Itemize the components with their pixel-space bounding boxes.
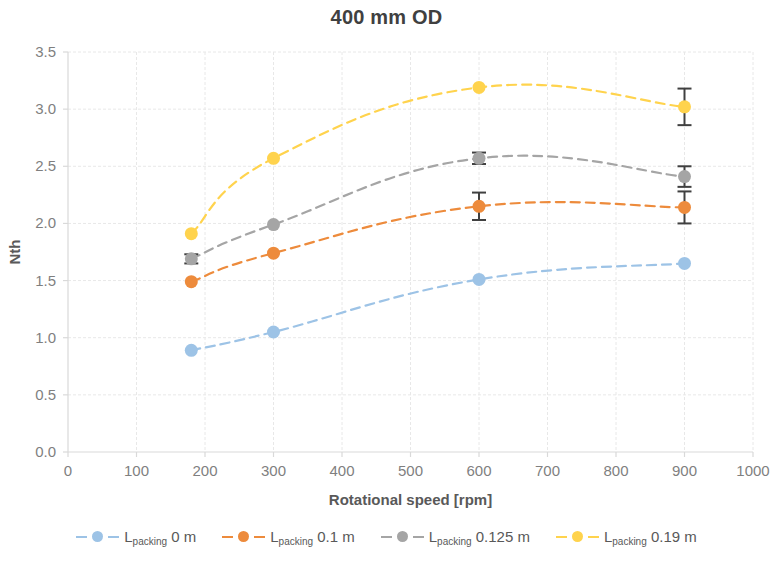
y-tick-label: 3.0 [35,100,56,117]
data-point-marker [185,275,198,288]
data-point-marker [678,257,691,270]
y-tick-label: 1.5 [35,272,56,289]
y-tick-label: 1.0 [35,329,56,346]
legend-dash-right-icon [254,536,265,538]
data-point-marker [473,152,486,165]
data-point-marker [267,152,280,165]
data-point-marker [185,252,198,265]
y-tick-label: 2.5 [35,157,56,174]
data-markers-series-3 [185,81,691,240]
data-point-marker [185,344,198,357]
legend-marker-icon [397,531,408,542]
legend-dash-left-icon [222,536,233,538]
y-tick-label: 3.5 [35,43,56,60]
x-tick-label: 800 [603,462,628,479]
legend-dash-right-icon [413,536,424,538]
y-tick-label: 0.0 [35,443,56,460]
data-markers-series-0 [185,257,691,357]
error-bars-series-1 [472,191,692,223]
data-point-marker [473,273,486,286]
data-point-marker [678,170,691,183]
legend-label: Lpacking 0.1 m [270,528,355,545]
legend-item-0[interactable]: Lpacking 0 m [76,528,196,545]
error-bars-series-2 [184,153,691,264]
legend-item-2[interactable]: Lpacking 0.125 m [381,528,530,545]
x-tick-label: 200 [192,462,217,479]
x-tick-labels: 01002003004005006007008009001000 [64,462,770,479]
legend-dash-right-icon [108,536,119,538]
data-point-marker [678,100,691,113]
chart-legend: Lpacking 0 mLpacking 0.1 mLpacking 0.125… [0,528,773,545]
data-point-marker [267,218,280,231]
line-chart-plot: 0.00.51.01.52.02.53.03.50100200300400500… [0,0,773,525]
y-tick-label: 2.0 [35,214,56,231]
series-line [191,156,684,259]
x-tick-label: 900 [672,462,697,479]
chart-container: 400 mm OD 0.00.51.01.52.02.53.03.5010020… [0,0,773,565]
data-markers-series-2 [185,152,691,266]
legend-label: Lpacking 0.125 m [429,528,530,545]
x-tick-label: 300 [261,462,286,479]
data-point-marker [473,81,486,94]
legend-label: Lpacking 0 m [124,528,196,545]
legend-dash-right-icon [588,536,599,538]
x-tick-label: 700 [535,462,560,479]
x-tick-label: 100 [124,462,149,479]
data-point-marker [473,200,486,213]
series-line [191,202,684,282]
data-markers-series-1 [185,200,691,288]
x-tick-label: 500 [398,462,423,479]
data-point-marker [267,326,280,339]
legend-marker-icon [92,531,103,542]
legend-dash-left-icon [76,536,87,538]
legend-marker-icon [572,531,583,542]
x-tick-label: 1000 [736,462,769,479]
x-tick-label: 600 [466,462,491,479]
data-point-marker [678,201,691,214]
legend-dash-left-icon [381,536,392,538]
legend-dash-left-icon [556,536,567,538]
grid-lines [68,52,753,452]
legend-marker-icon [238,531,249,542]
data-point-marker [267,247,280,260]
data-series-1 [191,202,684,282]
tick-marks [63,52,753,457]
legend-item-1[interactable]: Lpacking 0.1 m [222,528,355,545]
y-tick-labels: 0.00.51.01.52.02.53.03.5 [35,43,56,460]
legend-item-3[interactable]: Lpacking 0.19 m [556,528,697,545]
y-tick-label: 0.5 [35,386,56,403]
data-point-marker [185,227,198,240]
x-axis-title: Rotational speed [rpm] [329,491,492,508]
data-series-2 [191,156,684,259]
x-tick-label: 400 [329,462,354,479]
y-axis-title: Nth [6,240,23,265]
x-tick-label: 0 [64,462,72,479]
legend-label: Lpacking 0.19 m [604,528,697,545]
